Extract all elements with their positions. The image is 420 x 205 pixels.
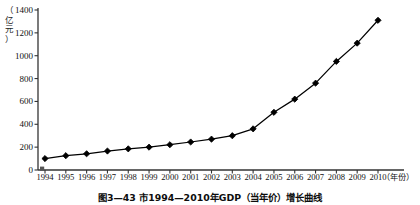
x-tick-label: 1996 <box>78 173 95 182</box>
x-tick-label: 2009 <box>349 173 366 182</box>
x-axis-tick-labels: 1994199519961997199819992000200120022003… <box>0 0 420 205</box>
x-tick-label: 1995 <box>57 173 74 182</box>
x-tick-label: 2001 <box>182 173 199 182</box>
x-tick-label: 1999 <box>140 173 157 182</box>
x-tick-label: 2002 <box>203 173 220 182</box>
x-tick-label: 1998 <box>120 173 137 182</box>
x-tick-label: 2005 <box>265 173 282 182</box>
x-tick-label: 2007 <box>307 173 324 182</box>
x-tick-label: 1994 <box>36 173 53 182</box>
x-tick-label: 2006 <box>286 173 303 182</box>
x-tick-label: 2008 <box>328 173 345 182</box>
x-tick-label: 1997 <box>99 173 116 182</box>
x-tick-label: 2000 <box>161 173 178 182</box>
x-axis-unit-label: （年份） <box>382 173 414 182</box>
x-tick-label: 2003 <box>224 173 241 182</box>
x-tick-label: 2004 <box>245 173 262 182</box>
figure-caption: 图3—43 市1994—2010年GDP（当年价）增长曲线 <box>0 192 420 203</box>
figure-container: （ 亿 元 ） 0200400600800100012001400 199419… <box>0 0 420 205</box>
